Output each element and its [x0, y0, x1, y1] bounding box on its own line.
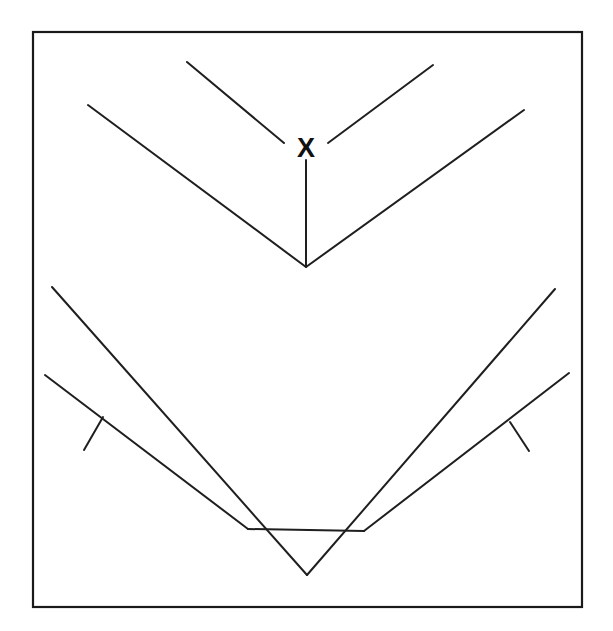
vertex-label-x: X	[297, 133, 315, 163]
figure-canvas: X	[0, 0, 613, 631]
labels-group: X	[297, 133, 315, 163]
figure-root: X	[0, 0, 613, 631]
outer-border	[33, 32, 582, 607]
